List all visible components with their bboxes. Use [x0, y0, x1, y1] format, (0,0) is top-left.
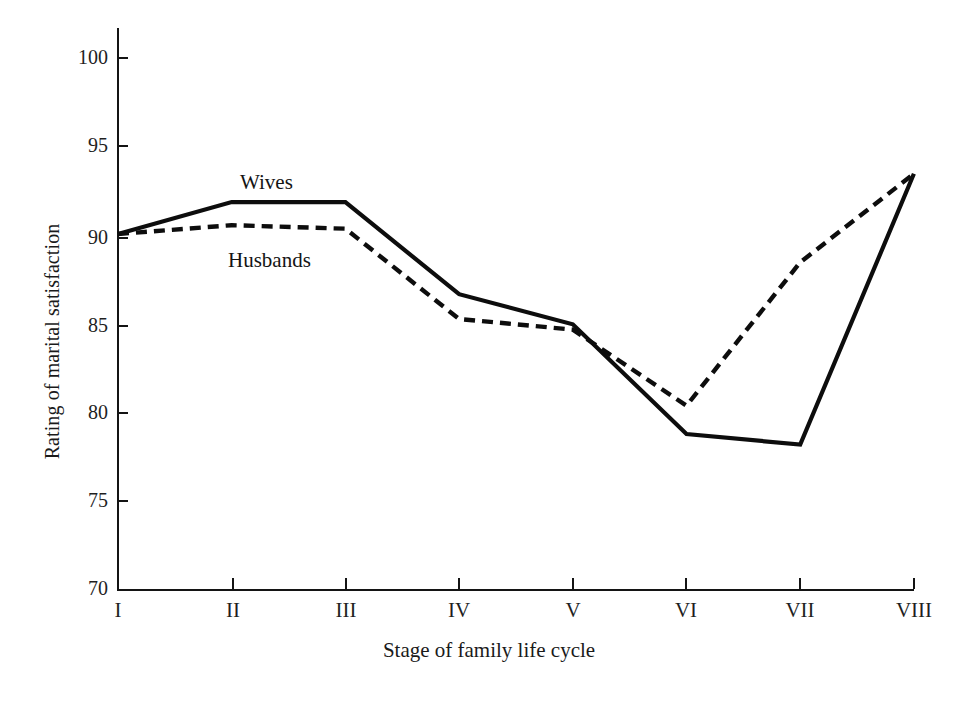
line-chart: 100 95 90 85 80 75 70 I II III IV V VI V… [0, 0, 978, 707]
series-line-husbands [118, 174, 914, 406]
plot-area [0, 0, 978, 707]
series-line-wives [118, 174, 914, 445]
